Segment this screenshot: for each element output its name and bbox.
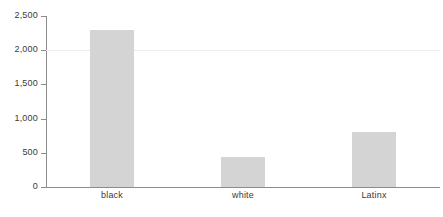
bar-chart: 05001,0001,5002,0002,500 blackwhiteLatin…	[0, 0, 443, 217]
bars-layer	[46, 16, 440, 187]
y-axis-tick-label: 1,000	[0, 114, 38, 123]
y-axis-tick-label: 500	[0, 148, 38, 157]
y-axis-tick-label: 1,500	[0, 79, 38, 88]
bar-black[interactable]	[90, 30, 134, 187]
x-axis-line	[46, 187, 440, 188]
y-axis-tick-label: 2,000	[0, 45, 38, 54]
x-axis-tick-label-white: white	[203, 191, 283, 200]
y-axis-tick-label: 2,500	[0, 11, 38, 20]
bar-white[interactable]	[221, 157, 265, 187]
y-axis-tick-label: 0	[0, 182, 38, 191]
bar-latinx[interactable]	[352, 132, 396, 187]
x-axis-tick-label-black: black	[72, 191, 152, 200]
y-axis-tick	[41, 187, 46, 188]
x-axis-tick-label-latinx: Latinx	[334, 191, 414, 200]
